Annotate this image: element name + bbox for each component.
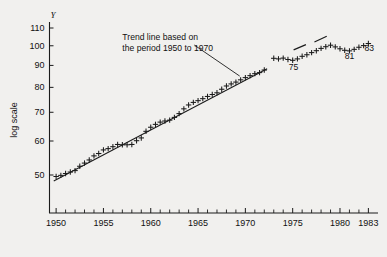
x-tick-label: 1983 <box>358 218 378 228</box>
x-tick-label: 1970 <box>235 218 255 228</box>
year-label-75: 75 <box>289 62 299 72</box>
y-tick-label: 80 <box>34 82 44 92</box>
y-tick-label: 100 <box>29 41 44 51</box>
y-tick-label: 50 <box>34 170 44 180</box>
year-label-81: 81 <box>345 51 355 61</box>
x-tick-label: 1965 <box>188 218 208 228</box>
x-tick-label: 1955 <box>93 218 113 228</box>
y-tick-label: 110 <box>30 23 44 33</box>
x-tick-label: 1980 <box>330 218 350 228</box>
x-tick-label: 1975 <box>283 218 303 228</box>
y-tick-label: 70 <box>34 107 44 117</box>
trend-annotation-line-1: Trend line based on <box>122 32 198 42</box>
x-tick-label: 1960 <box>141 218 161 228</box>
time-series-log-scale-chart: 5060708090100110 19501955196019651970197… <box>0 0 387 257</box>
year-label-83: 83 <box>365 43 375 53</box>
y-tick-label: 60 <box>34 136 44 146</box>
trend-annotation-line-2: the period 1950 to 1970 <box>122 43 213 53</box>
chart-figure: 5060708090100110 19501955196019651970197… <box>0 0 387 257</box>
x-tick-label: 1950 <box>46 218 66 228</box>
y-axis-title: log scale <box>9 102 19 138</box>
y-tick-label: 90 <box>34 60 44 70</box>
